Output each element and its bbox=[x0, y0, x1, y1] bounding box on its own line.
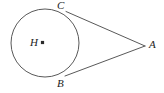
center-point-dot bbox=[41, 41, 44, 44]
geometry-figure: C B A H bbox=[0, 0, 164, 93]
tangent-segment-CA bbox=[66, 12, 145, 47]
figure-canvas bbox=[0, 0, 164, 93]
circle-H bbox=[11, 9, 79, 77]
center-label-h: H bbox=[30, 37, 38, 48]
point-label-c: C bbox=[57, 0, 64, 11]
tangent-segment-BA bbox=[65, 46, 145, 76]
point-label-a: A bbox=[149, 39, 156, 50]
point-label-b: B bbox=[57, 78, 64, 89]
